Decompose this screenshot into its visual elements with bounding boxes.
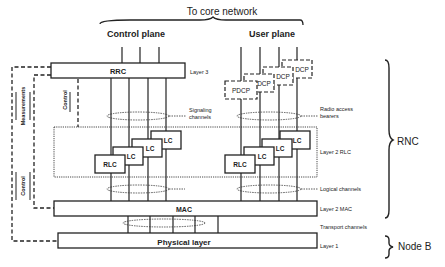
transport-channels-label: Transport channels: [320, 224, 367, 230]
control-left-label: Control: [20, 176, 26, 196]
svg-text:LC: LC: [146, 145, 155, 152]
svg-text:LC: LC: [293, 137, 302, 144]
radio-access-label-1: Radio access: [320, 106, 353, 112]
physical-layer-label: Physical layer: [157, 238, 210, 247]
logical-channels-ellipse-control: [107, 185, 169, 193]
radio-access-label-2: bearers: [320, 113, 339, 119]
svg-text:DCP: DCP: [295, 66, 309, 73]
rlc-control-stack: LC LC LC RLC: [95, 131, 181, 173]
svg-text:LC: LC: [164, 137, 173, 144]
rrc-upper-lines: [122, 47, 159, 63]
control-rrc-label: Control: [62, 90, 68, 110]
svg-text:DCP: DCP: [276, 73, 290, 80]
layer3-label: Layer 3: [190, 69, 208, 75]
node-b-label: Node B: [398, 241, 432, 252]
svg-text:LC: LC: [258, 153, 267, 160]
signaling-channels-ellipse: [107, 112, 169, 120]
svg-text:DCP: DCP: [257, 80, 271, 87]
protocol-stack-diagram: To core network Control plane User plane…: [0, 0, 445, 267]
radio-bearers-ellipse: [237, 112, 301, 120]
rnc-label: RNC: [397, 136, 419, 147]
pdcp-stack: DCP DCP DCP PDCP: [225, 60, 312, 99]
transport-channels-ellipse: [123, 219, 205, 227]
svg-text:PDCP: PDCP: [232, 87, 250, 94]
node-b-brace: [385, 236, 393, 258]
user-plane-label: User plane: [249, 29, 295, 39]
to-core-network-label: To core network: [187, 6, 259, 17]
signaling-label-2: channels: [189, 114, 211, 120]
measurements-label: Measurements: [20, 87, 26, 126]
rnc-brace: [385, 60, 393, 218]
logical-channels-label: Logical channels: [320, 186, 361, 192]
transport-channel-lines: [128, 216, 218, 233]
signaling-label-1: Signaling: [189, 107, 212, 113]
svg-text:LC: LC: [127, 153, 136, 160]
svg-text:RLC: RLC: [103, 161, 117, 168]
svg-text:LC: LC: [276, 145, 285, 152]
core-network-brace: [100, 17, 303, 25]
svg-text:RLC: RLC: [233, 161, 247, 168]
layer2-rlc-label: Layer 2 RLC: [320, 149, 351, 155]
control-plane-label: Control plane: [107, 29, 165, 39]
logical-channels-ellipse-user: [237, 185, 301, 193]
layer1-label: Layer 1: [320, 243, 338, 249]
mac-label: MAC: [176, 206, 192, 213]
rrc-label: RRC: [110, 67, 127, 76]
layer2-mac-label: Layer 2 MAC: [320, 206, 352, 212]
